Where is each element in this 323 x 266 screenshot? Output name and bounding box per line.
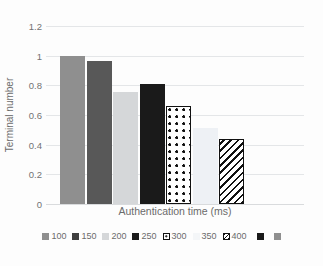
y-axis-tick-label: 0.4 [2,139,42,150]
legend-swatch-icon [132,233,139,240]
y-axis-tick-label: 0.8 [2,80,42,91]
legend-swatch-icon [72,233,79,240]
y-axis-tick-label: 0.2 [2,169,42,180]
bar-100 [60,56,85,204]
legend-label: 300 [172,232,187,241]
legend-item-150[interactable]: 150 [72,232,96,241]
bar-series [46,26,304,204]
bar-200 [113,92,138,204]
legend-label: 250 [141,232,156,241]
x-axis-title: Authentication time (ms) [46,205,304,217]
legend-label: 350 [202,232,217,241]
legend-swatch-icon [274,233,281,240]
legend-item-blank-7[interactable] [257,233,264,240]
legend-label: 150 [81,232,96,241]
legend-swatch-icon [223,233,230,240]
legend-label: 400 [232,232,247,241]
legend-swatch-icon [257,233,264,240]
plot-area [46,26,304,204]
legend-swatch-icon [42,233,49,240]
legend-item-350[interactable]: 350 [193,232,217,241]
legend-swatch-icon [163,233,170,240]
legend-label: 100 [51,232,66,241]
y-axis-tick-label: 1 [2,50,42,61]
bar-300 [166,106,191,204]
legend-label: 200 [111,232,126,241]
bar-350 [193,128,218,204]
legend-item-400[interactable]: 400 [223,232,247,241]
bar-chart: Terminal number 00.20.40.60.811.2 Authen… [0,0,323,266]
y-axis-tick-label: 0.6 [2,110,42,121]
bar-250 [140,84,165,204]
legend-item-blank-8[interactable] [274,233,281,240]
y-axis-tick-label: 0 [2,199,42,210]
legend-item-300[interactable]: 300 [163,232,187,241]
bar-150 [87,61,112,204]
legend-item-200[interactable]: 200 [102,232,126,241]
legend-item-250[interactable]: 250 [132,232,156,241]
legend-swatch-icon [102,233,109,240]
legend-swatch-icon [193,233,200,240]
bar-400 [219,139,244,204]
y-axis-tick-label: 1.2 [2,21,42,32]
legend-item-100[interactable]: 100 [42,232,66,241]
chart-legend: 100150200250300350400 [0,232,323,241]
